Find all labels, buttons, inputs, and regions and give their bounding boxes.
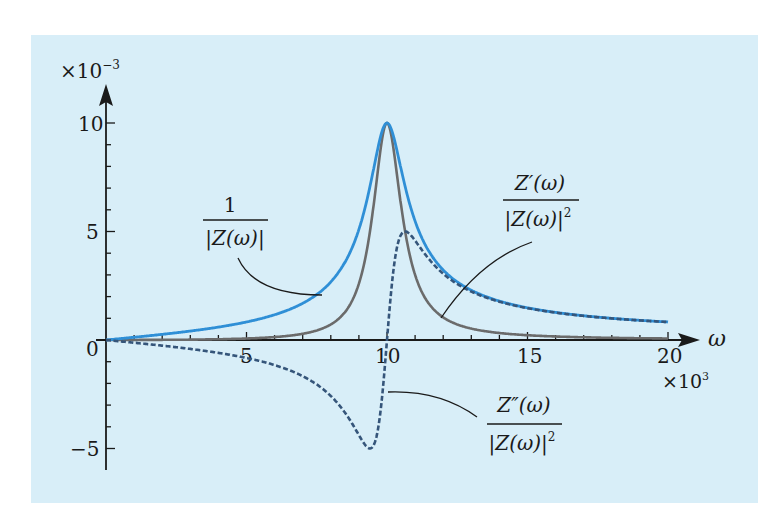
annotation-imag-denominator: |Z(ω)|2 — [489, 430, 556, 456]
annotation-real-numerator: Z′(ω) — [514, 171, 565, 195]
annotation-abs-denominator: |Z(ω)| — [205, 226, 264, 251]
axes — [96, 84, 700, 470]
x-tick-label-10: 10 — [375, 344, 400, 368]
x-axis-label-omega: ω — [708, 326, 726, 351]
annotation-abs-inverse: 1 |Z(ω)| — [203, 193, 268, 251]
origin-label: 0 — [86, 337, 99, 361]
real-part-curve — [106, 123, 668, 340]
abs-inverse-curve — [106, 123, 668, 340]
y-tick-label-neg5: −5 — [70, 437, 99, 461]
annotation-imag-part: Z″(ω) |Z(ω)|2 — [487, 393, 562, 456]
annotation-leader-abs — [238, 258, 322, 295]
y-ticks — [106, 123, 115, 449]
y-tick-label-5: 5 — [86, 220, 99, 244]
annotation-real-denominator: |Z(ω)|2 — [505, 206, 572, 232]
resonance-chart: ×10−3 10 5 0 −5 5 10 15 20 ω ×103 1 |Z(ω… — [0, 0, 782, 531]
x-tick-label-15: 15 — [517, 344, 542, 368]
annotation-abs-numerator: 1 — [224, 193, 237, 217]
y-tick-label-10: 10 — [78, 112, 103, 136]
x-multiplier-label: ×103 — [662, 370, 709, 392]
annotation-real-part: Z′(ω) |Z(ω)|2 — [503, 171, 579, 232]
y-multiplier-label: ×10−3 — [60, 58, 120, 83]
annotation-imag-numerator: Z″(ω) — [496, 393, 550, 417]
x-tick-label-20: 20 — [657, 344, 682, 368]
annotation-leader-imag — [388, 392, 477, 417]
